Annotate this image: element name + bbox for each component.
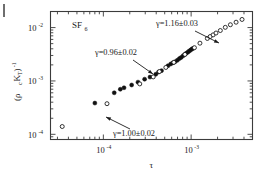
data-point-open	[234, 20, 238, 24]
y-axis-title-paren: )	[12, 69, 22, 72]
data-point-filled	[130, 83, 134, 87]
x-tick-mantissa: 10	[184, 145, 193, 155]
y-axis-title: (ρcKT)-1	[11, 62, 23, 101]
data-point-filled	[122, 86, 126, 90]
y-tick-label: 10-3	[28, 75, 43, 86]
y-tick-exponent: -3	[38, 75, 43, 81]
annotation-gamma-middle: γ=0.96±0.02	[94, 48, 153, 74]
data-point-open	[228, 23, 232, 27]
data-point-open	[164, 65, 168, 69]
x-tick-exponent: -4	[107, 144, 112, 150]
data-point-open	[105, 102, 109, 106]
x-tick-label: 10-3	[184, 144, 199, 155]
scatter-plot: 10-410-310-210-310-4τ(ρcKT)-1SF6γ=1.16±0…	[0, 0, 263, 172]
data-point-open	[214, 31, 218, 35]
annotation-gamma-lower: γ=1.00±0.02	[106, 117, 155, 138]
sample-label-subscript: 6	[85, 26, 88, 32]
y-axis-title-rho: (ρ	[12, 93, 22, 101]
data-point-open	[198, 41, 202, 45]
x-tick-label: 10-4	[96, 144, 111, 155]
y-tick-mantissa: 10	[28, 23, 37, 33]
x-axis-title: τ	[150, 160, 154, 170]
data-point-filled	[93, 101, 97, 105]
data-point-open	[218, 29, 222, 33]
y-tick-exponent: -4	[38, 129, 43, 135]
annotation-label: γ=1.16±0.03	[155, 19, 198, 28]
y-tick-label: 10-4	[28, 129, 43, 140]
data-point-open	[192, 46, 196, 50]
y-axis-title-exponent: -1	[11, 62, 17, 67]
data-point-open	[151, 75, 155, 79]
data-point-filled	[118, 87, 122, 91]
data-point-open	[172, 60, 176, 64]
y-tick-label: 10-2	[28, 22, 43, 33]
annotation-arrow-head	[148, 70, 153, 74]
y-tick-mantissa: 10	[28, 76, 37, 86]
x-tick-mantissa: 10	[96, 145, 105, 155]
data-point-open	[240, 17, 244, 21]
data-point-open	[138, 82, 142, 86]
data-point-open	[60, 125, 64, 129]
y-tick-exponent: -2	[38, 22, 43, 28]
y-tick-mantissa: 10	[28, 130, 37, 140]
x-tick-exponent: -3	[194, 144, 199, 150]
data-point-open	[157, 70, 161, 74]
annotation-label: γ=0.96±0.02	[94, 48, 137, 57]
sample-label-text: SF	[72, 20, 82, 30]
data-point-filled	[112, 91, 116, 95]
annotation-arrow-head	[214, 39, 219, 43]
figure-panel: 10-410-310-210-310-4τ(ρcKT)-1SF6γ=1.16±0…	[0, 0, 263, 172]
annotation-arrow-head	[106, 117, 111, 121]
data-point-filled	[143, 77, 147, 81]
sample-label: SF6	[72, 20, 88, 32]
annotation-label: γ=1.00±0.02	[112, 129, 155, 138]
data-point-open	[223, 25, 227, 29]
data-point-open	[183, 52, 187, 56]
